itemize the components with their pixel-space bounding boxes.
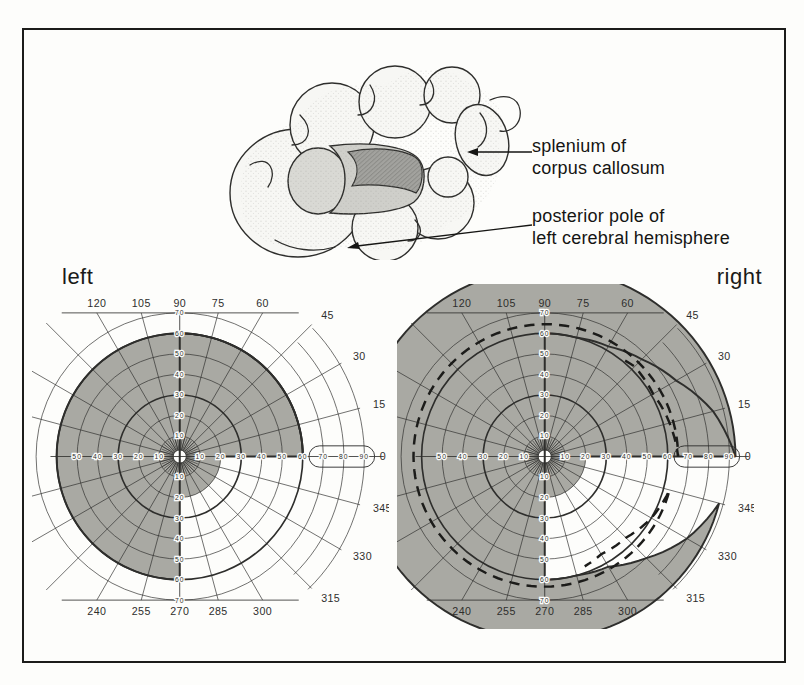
ecc-label-down-60: 60 bbox=[175, 576, 185, 583]
meridian-label-240: 240 bbox=[87, 605, 106, 617]
ecc-label-box-80: 80 bbox=[339, 453, 349, 460]
meridian-315 bbox=[184, 461, 311, 588]
meridian-label-255: 255 bbox=[497, 605, 516, 617]
ecc-label-right-10: 10 bbox=[560, 453, 570, 460]
ecc-label-down-20: 20 bbox=[540, 494, 550, 501]
meridian-label-105: 105 bbox=[132, 297, 151, 309]
ecc-label-right-30: 30 bbox=[236, 453, 246, 460]
ecc-label-up-50: 50 bbox=[540, 350, 550, 357]
ecc-label-up-50: 50 bbox=[175, 350, 185, 357]
meridian-label-270: 270 bbox=[170, 605, 189, 617]
ecc-label-down-60: 60 bbox=[540, 576, 550, 583]
meridian-label-345: 345 bbox=[373, 502, 389, 514]
ecc-label-down-50: 50 bbox=[175, 556, 185, 563]
ecc-label-left-50: 50 bbox=[437, 453, 447, 460]
ecc-label-box-70: 70 bbox=[319, 453, 329, 460]
posterior-pole-label: posterior pole of left cerebral hemisphe… bbox=[532, 206, 730, 250]
meridian-330 bbox=[185, 460, 341, 550]
ecc-label-up-20: 20 bbox=[175, 412, 185, 419]
meridian-label-120: 120 bbox=[452, 297, 471, 309]
ecc-label-up-40: 40 bbox=[540, 371, 550, 378]
ecc-label-down-40: 40 bbox=[540, 535, 550, 542]
meridian-label-330: 330 bbox=[718, 550, 737, 562]
meridian-label-90: 90 bbox=[173, 297, 186, 309]
ecc-label-down-10: 10 bbox=[540, 473, 550, 480]
ecc-label-right-50: 50 bbox=[278, 453, 288, 460]
meridian-label-75: 75 bbox=[212, 297, 225, 309]
ecc-label-up-30: 30 bbox=[540, 391, 550, 398]
right-eye-perimetry-chart: 0153045607590105120240255270285300315330… bbox=[397, 284, 754, 629]
ecc-label-right-10: 10 bbox=[195, 453, 205, 460]
meridian-label-315: 315 bbox=[321, 592, 340, 604]
meridian-label-90: 90 bbox=[538, 297, 551, 309]
meridian-label-345: 345 bbox=[738, 502, 754, 514]
meridian-label-255: 255 bbox=[132, 605, 151, 617]
ecc-label-down-70: 70 bbox=[540, 597, 550, 604]
meridian-label-330: 330 bbox=[353, 550, 372, 562]
ecc-label-down-40: 40 bbox=[175, 535, 185, 542]
meridian-label-300: 300 bbox=[618, 605, 637, 617]
ecc-label-left-40: 40 bbox=[93, 453, 103, 460]
ecc-label-up-70: 70 bbox=[540, 309, 550, 316]
ecc-label-up-40: 40 bbox=[175, 371, 185, 378]
meridian-label-105: 105 bbox=[497, 297, 516, 309]
ecc-label-up-10: 10 bbox=[175, 432, 185, 439]
ecc-label-down-30: 30 bbox=[540, 515, 550, 522]
meridian-label-30: 30 bbox=[718, 350, 731, 362]
meridian-label-45: 45 bbox=[686, 309, 699, 321]
ecc-label-up-60: 60 bbox=[540, 330, 550, 337]
ecc-label-up-10: 10 bbox=[540, 432, 550, 439]
posterior-pole-label-line2: left cerebral hemisphere bbox=[532, 228, 730, 250]
ecc-label-right-50: 50 bbox=[643, 453, 653, 460]
ecc-label-up-20: 20 bbox=[540, 412, 550, 419]
ecc-label-left-10: 10 bbox=[519, 453, 529, 460]
meridian-label-75: 75 bbox=[577, 297, 590, 309]
ecc-label-box-90: 90 bbox=[360, 453, 370, 460]
ecc-label-up-30: 30 bbox=[175, 391, 185, 398]
meridian-label-60: 60 bbox=[621, 297, 634, 309]
meridian-label-285: 285 bbox=[209, 605, 228, 617]
ecc-label-left-50: 50 bbox=[72, 453, 82, 460]
ecc-label-down-70: 70 bbox=[175, 597, 185, 604]
splenium-label: splenium of corpus callosum bbox=[532, 136, 665, 180]
brain-illustration bbox=[180, 45, 540, 260]
left-eye-perimetry-chart: 0153045607590105120240255270285300315330… bbox=[32, 284, 389, 629]
ecc-label-down-20: 20 bbox=[175, 494, 185, 501]
posterior-pole-label-line1: posterior pole of bbox=[532, 206, 730, 228]
meridian-label-30: 30 bbox=[353, 350, 366, 362]
ecc-label-right-60: 60 bbox=[663, 453, 673, 460]
meridian-label-0: 0 bbox=[380, 450, 386, 462]
meridian-label-270: 270 bbox=[535, 605, 554, 617]
meridian-label-120: 120 bbox=[87, 297, 106, 309]
meridian-label-15: 15 bbox=[373, 398, 386, 410]
splenium-label-line1: splenium of bbox=[532, 136, 665, 158]
ecc-label-left-10: 10 bbox=[154, 453, 164, 460]
meridian-label-315: 315 bbox=[686, 592, 705, 604]
ecc-label-left-20: 20 bbox=[134, 453, 144, 460]
ecc-label-box-70: 70 bbox=[684, 453, 694, 460]
meridian-label-285: 285 bbox=[574, 605, 593, 617]
ecc-label-left-30: 30 bbox=[113, 453, 123, 460]
meridian-label-240: 240 bbox=[452, 605, 471, 617]
meridian-label-60: 60 bbox=[256, 297, 269, 309]
ecc-label-left-30: 30 bbox=[478, 453, 488, 460]
ecc-label-right-20: 20 bbox=[216, 453, 226, 460]
ecc-label-box-90: 90 bbox=[725, 453, 735, 460]
meridian-label-45: 45 bbox=[321, 309, 334, 321]
ecc-label-right-20: 20 bbox=[581, 453, 591, 460]
ecc-label-up-70: 70 bbox=[175, 309, 185, 316]
ecc-label-left-20: 20 bbox=[499, 453, 509, 460]
meridian-label-15: 15 bbox=[738, 398, 751, 410]
splenium-label-line2: corpus callosum bbox=[532, 158, 665, 180]
meridian-label-300: 300 bbox=[253, 605, 272, 617]
ecc-label-right-40: 40 bbox=[622, 453, 632, 460]
ecc-label-left-40: 40 bbox=[458, 453, 468, 460]
ecc-label-down-50: 50 bbox=[540, 556, 550, 563]
ecc-label-up-60: 60 bbox=[175, 330, 185, 337]
meridian-label-0: 0 bbox=[745, 450, 751, 462]
ecc-label-right-30: 30 bbox=[601, 453, 611, 460]
ecc-label-down-10: 10 bbox=[175, 473, 185, 480]
ecc-label-right-60: 60 bbox=[298, 453, 308, 460]
ecc-label-box-80: 80 bbox=[704, 453, 714, 460]
ecc-label-down-30: 30 bbox=[175, 515, 185, 522]
